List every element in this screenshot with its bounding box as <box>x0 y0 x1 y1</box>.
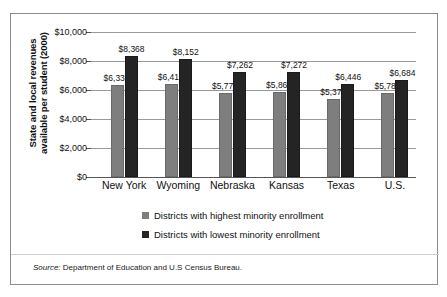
x-axis-label-nebraska: Nebraska <box>210 179 255 191</box>
bar-high-minority[interactable] <box>327 99 340 177</box>
bar-high-minority[interactable] <box>219 93 232 177</box>
bar-low-minority[interactable] <box>395 80 408 177</box>
y-tick-label-6000: $6,000 <box>59 85 87 95</box>
bar-low-minority[interactable] <box>179 59 192 177</box>
chart-legend: Districts with highest minority enrollme… <box>11 206 439 244</box>
legend-swatch-icon <box>142 231 149 238</box>
x-axis-label-wyoming: Wyoming <box>156 179 200 191</box>
x-axis-label-new-york: New York <box>102 179 146 191</box>
source-note: Source: Department of Education and U.S … <box>33 263 242 272</box>
legend-label: Districts with highest minority enrollme… <box>154 210 323 221</box>
y-tick-label-4000: $4,000 <box>59 114 87 124</box>
bar-value-label: $7,262 <box>227 60 253 70</box>
y-tick-label-0: $0 <box>77 172 87 182</box>
source-divider <box>11 254 439 255</box>
source-text: Department of Education and U.S Census B… <box>63 263 242 272</box>
bar-value-label: $7,272 <box>281 60 307 70</box>
gridline-0: $0 <box>91 177 416 178</box>
legend-swatch-icon <box>142 212 149 219</box>
y-axis-title-line-2: available per student (2000) <box>38 21 49 166</box>
bar-low-minority[interactable] <box>341 84 354 177</box>
bar-high-minority[interactable] <box>111 85 124 177</box>
bar-group: $5,777$7,262 <box>219 32 246 177</box>
legend-item[interactable]: Districts with lowest minority enrollmen… <box>11 225 439 244</box>
bar-group: $5,378$6,446 <box>327 32 354 177</box>
x-axis-label-u-s: U.S. <box>385 179 405 191</box>
bar-group: $5,868$7,272 <box>273 32 300 177</box>
bar-value-label: $6,684 <box>389 68 415 78</box>
bar-group: $5,782$6,684 <box>381 32 408 177</box>
y-tick-label-10000: $10,000 <box>54 27 87 37</box>
chart-figure-frame: State and local revenues available per s… <box>10 13 438 285</box>
bar-value-label: $8,152 <box>173 47 199 57</box>
bar-low-minority[interactable] <box>233 72 246 177</box>
x-axis-label-kansas: Kansas <box>269 179 304 191</box>
bar-value-label: $8,368 <box>119 44 145 54</box>
legend-label: Districts with lowest minority enrollmen… <box>154 229 320 240</box>
legend-item[interactable]: Districts with highest minority enrollme… <box>11 206 439 225</box>
bar-high-minority[interactable] <box>165 84 178 177</box>
bar-value-label: $6,446 <box>335 72 361 82</box>
y-axis-title-line-1: State and local revenues <box>27 21 38 166</box>
bar-layer: $6,335$8,368$6,418$8,152$5,777$7,262$5,8… <box>91 32 416 177</box>
y-axis-title: State and local revenues available per s… <box>27 21 49 166</box>
bar-high-minority[interactable] <box>273 92 286 177</box>
y-tick-label-8000: $8,000 <box>59 56 87 66</box>
y-tick-label-2000: $2,000 <box>59 143 87 153</box>
bar-low-minority[interactable] <box>287 72 300 177</box>
x-axis-label-texas: Texas <box>327 179 354 191</box>
bar-group: $6,335$8,368 <box>111 32 138 177</box>
bar-low-minority[interactable] <box>125 56 138 177</box>
bar-group: $6,418$8,152 <box>165 32 192 177</box>
chart-plot-region: State and local revenues available per s… <box>11 14 439 196</box>
source-prefix: Source: <box>33 263 61 272</box>
plot-box: $0$2,000$4,000$6,000$8,000$10,000 $6,335… <box>91 32 416 177</box>
bar-high-minority[interactable] <box>381 93 394 177</box>
